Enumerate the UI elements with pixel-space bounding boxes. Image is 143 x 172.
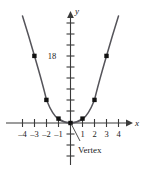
parabola-graph-figure: y x 18 –4 –3 –2 –1 1 2 3 4 Vertex	[0, 0, 143, 172]
x-tick-label-1: 1	[80, 129, 84, 139]
x-tick-label--4: –4	[17, 129, 27, 139]
x-axis-arrowhead	[126, 120, 133, 127]
x-tick-label--3: –3	[29, 129, 39, 139]
graph-canvas: y x 18 –4 –3 –2 –1 1 2 3 4 Vertex	[0, 0, 143, 172]
data-point--2	[44, 98, 48, 102]
x-axis-label: x	[134, 118, 139, 128]
x-tick-label--2: –2	[41, 129, 51, 139]
data-point-1	[80, 116, 84, 120]
vertex-leader-line	[71, 124, 80, 142]
data-point-2	[92, 98, 96, 102]
x-tick-label--1: –1	[53, 129, 63, 139]
y-tick-label-18: 18	[48, 51, 57, 61]
vertex-annotation-label: Vertex	[78, 145, 102, 155]
x-tick-label-3: 3	[104, 129, 108, 139]
data-point--3	[32, 54, 36, 58]
data-point--1	[56, 116, 60, 120]
y-axis-label: y	[74, 6, 79, 16]
x-tick-label-4: 4	[116, 129, 121, 139]
x-tick-label-2: 2	[92, 129, 96, 139]
y-axis-arrowhead	[67, 11, 74, 18]
data-point-3	[104, 54, 108, 58]
